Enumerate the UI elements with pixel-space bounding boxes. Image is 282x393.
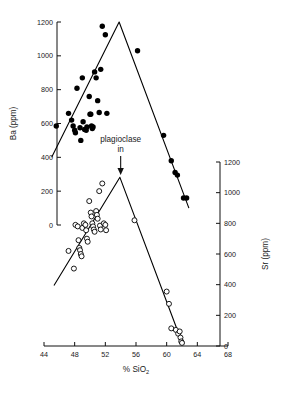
data-point-Sr: [84, 228, 89, 233]
data-point-Ba: [66, 111, 71, 116]
trend-line-Sr: [54, 177, 183, 344]
right-tick-label: 400: [224, 280, 236, 289]
data-point-Ba: [69, 117, 74, 122]
data-point-Sr: [87, 199, 92, 204]
right-tick-label: 200: [224, 311, 236, 320]
data-point-Sr: [104, 228, 109, 233]
data-point-Ba: [54, 123, 59, 128]
annotation-arrow-head: [117, 168, 123, 175]
data-point-Ba: [92, 69, 97, 74]
data-point-Sr: [177, 329, 182, 334]
data-point-Sr: [83, 222, 88, 227]
chart-svg: 44485256606468% SiO202004006008001000120…: [0, 0, 282, 393]
data-point-Ba: [135, 48, 140, 53]
right-tick-label: 1000: [224, 188, 240, 197]
left-axis-title: Ba (ppm): [9, 106, 18, 140]
right-axis-title: Sr (ppm): [261, 238, 270, 270]
data-point-Sr: [89, 214, 94, 219]
right-tick-label: 0: [224, 342, 228, 351]
data-point-Sr: [103, 222, 108, 227]
x-tick-label: 56: [132, 350, 140, 359]
right-tick-label: 1200: [224, 158, 240, 167]
data-point-Sr: [92, 229, 97, 234]
data-point-Sr: [100, 181, 105, 186]
data-point-Ba: [184, 195, 189, 200]
left-tick-label: 1000: [37, 51, 53, 60]
data-point-Ba: [100, 24, 105, 29]
data-point-Sr: [79, 254, 84, 259]
data-point-Sr: [85, 239, 90, 244]
data-point-Ba: [161, 133, 166, 138]
data-point-Ba: [169, 158, 174, 163]
axes-layer: 44485256606468% SiO202004006008001000120…: [9, 18, 270, 376]
x-tick-label: 64: [193, 350, 201, 359]
x-tick-label: 52: [101, 350, 109, 359]
data-point-Sr: [164, 289, 169, 294]
data-point-Ba: [98, 67, 103, 72]
annotation-layer: plagioclasein: [100, 135, 141, 175]
data-point-Sr: [71, 266, 76, 271]
x-tick-label: 48: [71, 350, 79, 359]
data-point-Ba: [80, 75, 85, 80]
data-point-Ba: [103, 32, 108, 37]
trend-line-Ba: [52, 22, 189, 208]
chart-figure: 44485256606468% SiO202004006008001000120…: [0, 0, 282, 393]
x-tick-label: 44: [40, 350, 48, 359]
series-layer: [52, 22, 190, 345]
data-point-Sr: [97, 189, 102, 194]
series-Sr: [54, 177, 185, 345]
right-tick-label: 800: [224, 219, 236, 228]
data-point-Sr: [98, 227, 103, 232]
left-tick-label: 400: [41, 153, 53, 162]
data-point-Ba: [77, 125, 82, 130]
data-point-Ba: [78, 138, 83, 143]
left-tick-label: 200: [41, 187, 53, 196]
x-tick-label: 60: [163, 350, 171, 359]
data-point-Ba: [97, 110, 102, 115]
data-point-Sr: [66, 248, 71, 253]
data-point-Ba: [87, 94, 92, 99]
data-point-Ba: [80, 119, 85, 124]
data-point-Ba: [73, 130, 78, 135]
data-point-Sr: [95, 216, 100, 221]
data-point-Ba: [93, 75, 98, 80]
x-tick-label: 68: [224, 350, 232, 359]
right-tick-label: 600: [224, 250, 236, 259]
data-point-Sr: [132, 218, 137, 223]
left-tick-label: 0: [49, 221, 53, 230]
annotation-line1: plagioclase: [100, 135, 141, 144]
x-axis-title: % SiO2: [123, 365, 149, 375]
data-point-Sr: [166, 301, 171, 306]
data-point-Ba: [95, 98, 100, 103]
data-point-Ba: [84, 124, 89, 129]
data-point-Ba: [175, 172, 180, 177]
data-point-Ba: [104, 111, 109, 116]
data-point-Ba: [74, 86, 79, 91]
data-point-Sr: [76, 238, 81, 243]
data-point-Sr: [180, 340, 185, 345]
left-tick-label: 800: [41, 85, 53, 94]
left-tick-label: 600: [41, 119, 53, 128]
data-point-Ba: [90, 124, 95, 129]
annotation-line2: in: [117, 145, 124, 154]
left-tick-label: 1200: [37, 18, 53, 27]
data-point-Ba: [88, 112, 93, 117]
